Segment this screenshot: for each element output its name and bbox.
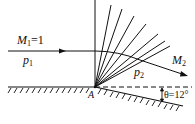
streamline bbox=[8, 51, 185, 75]
upstream-flow-arrow-icon bbox=[59, 49, 66, 54]
downstream-pressure-label: p2 bbox=[134, 66, 144, 80]
angle-label: θ=12° bbox=[164, 90, 188, 100]
upstream-wall-hatching bbox=[8, 88, 89, 93]
downstream-mach-label: M2 bbox=[172, 54, 186, 68]
corner-label: A bbox=[88, 90, 94, 100]
expansion-fan-lines bbox=[95, 0, 170, 87]
corner-point bbox=[94, 86, 96, 88]
upstream-pressure-label: p1 bbox=[23, 54, 33, 68]
downstream-flow-arrow-icon bbox=[180, 71, 188, 77]
upstream-mach-label: M1=1 bbox=[17, 34, 44, 48]
